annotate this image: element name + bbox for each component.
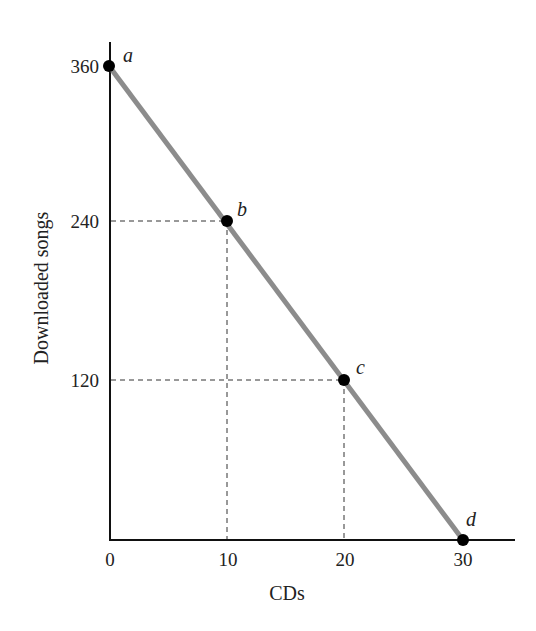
label-c: c xyxy=(356,356,365,378)
y-tick-120: 120 xyxy=(71,370,100,391)
point-b xyxy=(221,215,233,227)
y-axis-title: Downloaded songs xyxy=(30,211,53,364)
x-axis-title: CDs xyxy=(269,582,305,604)
y-tick-360: 360 xyxy=(71,56,100,77)
ppf-line xyxy=(109,66,463,540)
x-tick-0: 0 xyxy=(105,549,115,570)
x-tick-20: 20 xyxy=(336,549,355,570)
y-tick-240: 240 xyxy=(71,211,100,232)
label-d: d xyxy=(466,508,477,530)
point-c xyxy=(338,374,350,386)
point-d xyxy=(457,534,469,546)
x-tick-30: 30 xyxy=(454,549,473,570)
point-a xyxy=(103,60,115,72)
label-a: a xyxy=(123,44,133,66)
label-b: b xyxy=(237,198,247,220)
x-tick-10: 10 xyxy=(219,549,238,570)
guide-lines xyxy=(111,221,344,540)
ppf-chart: a b c d 360 240 120 0 10 20 30 CDs Downl… xyxy=(0,0,536,631)
